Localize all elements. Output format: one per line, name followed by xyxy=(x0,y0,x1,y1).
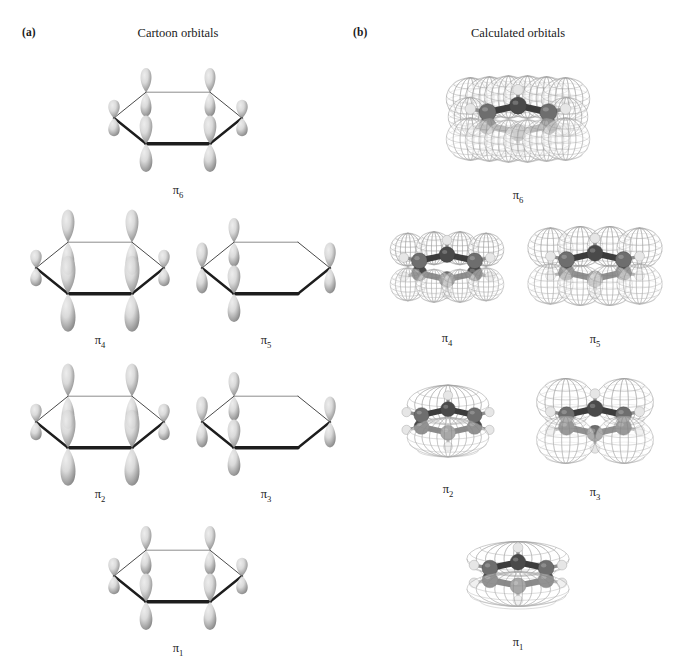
calc-pi5-drawing xyxy=(522,205,668,327)
isosurface-front xyxy=(407,418,489,457)
orbital-index: 1 xyxy=(519,642,523,652)
calc-pi5-label: π5 xyxy=(522,333,668,346)
mesh-isosurface-cap xyxy=(407,418,489,457)
carbon-atom xyxy=(559,252,575,268)
carbon-atom xyxy=(439,247,455,263)
orbital-index: 1 xyxy=(179,648,183,658)
orbital-index: 4 xyxy=(448,338,452,348)
carbon-atom xyxy=(412,253,428,269)
calc-pi6-label: π6 xyxy=(440,189,596,202)
hydrogen-atom xyxy=(635,251,645,261)
carbon-atom xyxy=(540,104,557,121)
mesh-isosurface-lobe xyxy=(537,416,595,463)
calc-pi2: π2 xyxy=(380,365,516,503)
calc-pi4-drawing xyxy=(376,208,518,326)
isosurface-front xyxy=(467,572,569,609)
calc-pi5: π5 xyxy=(522,205,668,353)
hydrogen-atom xyxy=(590,233,600,243)
carbon-atom xyxy=(479,104,496,121)
calc-pi6: π6 xyxy=(440,55,596,209)
hydrogen-atom xyxy=(443,391,452,400)
orbital-index: 2 xyxy=(449,489,453,499)
calc-pi3: π3 xyxy=(522,362,668,506)
isosurface-front xyxy=(537,416,654,463)
carbon-atom xyxy=(467,253,483,269)
calc-pi2-label: π2 xyxy=(380,483,516,496)
hydrogen-atom xyxy=(635,407,645,417)
isosurface-front xyxy=(446,118,590,162)
hydrogen-atom xyxy=(545,407,555,417)
hydrogen-atom xyxy=(399,253,409,263)
mesh-isosurface-lobe xyxy=(541,118,589,160)
hydrogen-atom xyxy=(513,84,524,95)
calc-pi3-drawing xyxy=(522,362,668,480)
carbon-atom xyxy=(587,245,603,261)
mesh-isosurface-cap xyxy=(467,572,569,609)
carbon-atom xyxy=(587,401,603,417)
carbon-atom xyxy=(615,252,631,268)
orbital-index: 6 xyxy=(519,195,523,205)
calc-pi2-drawing xyxy=(380,365,516,477)
calc-pi3-label: π3 xyxy=(522,486,668,499)
calc-pi1-label: π1 xyxy=(446,636,590,649)
hydrogen-atom xyxy=(560,104,571,115)
hydrogen-atom xyxy=(465,104,476,115)
hydrogen-atom xyxy=(590,389,600,399)
hydrogen-atom xyxy=(485,407,494,416)
hydrogen-atom xyxy=(442,235,452,245)
orbital-index: 3 xyxy=(596,492,600,502)
isosurface-front xyxy=(528,264,662,306)
mesh-isosurface-lobe xyxy=(617,264,662,304)
hydrogen-atom xyxy=(485,253,495,263)
calc-pi1-drawing xyxy=(446,518,590,630)
hydrogen-atom xyxy=(402,407,411,416)
mesh-isosurface-lobe xyxy=(468,268,504,301)
calc-pi4-label: π4 xyxy=(376,332,518,345)
carbon-atom xyxy=(510,554,526,570)
hydrogen-atom xyxy=(546,251,556,261)
carbon-atom xyxy=(509,97,526,114)
calc-pi1: π1 xyxy=(446,518,590,656)
carbon-atom xyxy=(441,402,456,417)
hydrogen-atom xyxy=(513,543,523,553)
hydrogen-atom xyxy=(557,560,567,570)
mesh-isosurface-lobe xyxy=(595,416,653,463)
orbital-index: 5 xyxy=(596,339,600,349)
calc-pi6-drawing xyxy=(440,55,596,183)
hydrogen-atom xyxy=(469,560,479,570)
calc-pi4: π4 xyxy=(376,208,518,352)
